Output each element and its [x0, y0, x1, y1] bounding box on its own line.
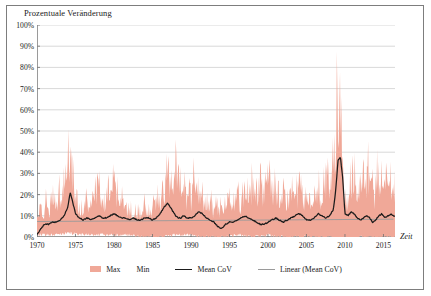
- y-tick-label: 30%: [20, 169, 34, 178]
- chart-svg: [37, 25, 395, 237]
- x-tick-label: 2000: [260, 241, 275, 250]
- x-tick-label: 2010: [337, 241, 352, 250]
- legend-label-linear: Linear (Mean CoV): [280, 265, 342, 274]
- x-tick-label: 1995: [222, 241, 237, 250]
- x-tick-label: 1980: [106, 241, 121, 250]
- y-tick-label: 80%: [20, 63, 34, 72]
- y-tick-label: 40%: [20, 148, 34, 157]
- plot-canvas: [37, 25, 395, 237]
- x-tick-label: 1970: [29, 241, 44, 250]
- line-swatch-icon: [175, 269, 192, 270]
- legend-item-linear-trend: Linear (Mean CoV): [258, 265, 342, 274]
- legend-label-mean-cov: Mean CoV: [197, 265, 231, 274]
- legend-item-mean-cov: Mean CoV: [175, 265, 231, 274]
- y-tick-label: 60%: [20, 105, 34, 114]
- max-min-band: [37, 51, 395, 237]
- y-tick-label: 70%: [20, 84, 34, 93]
- x-tick-label: 1990: [183, 241, 198, 250]
- x-tick-label: 1985: [145, 241, 160, 250]
- y-axis-label: Prozentuale Veränderung: [24, 8, 112, 18]
- x-tick-label: 2005: [299, 241, 314, 250]
- legend-label-max: Max: [106, 265, 120, 274]
- legend-item-max-min: Max Min: [90, 265, 149, 274]
- y-tick-label: 50%: [20, 127, 34, 136]
- chart-legend: Max Min Mean CoV Linear (Mean CoV): [37, 261, 395, 277]
- y-tick-label: 90%: [20, 42, 34, 51]
- y-tick-label: 20%: [20, 190, 34, 199]
- area-swatch-icon: [90, 266, 101, 272]
- y-tick-label: 10%: [20, 211, 34, 220]
- thin-line-swatch-icon: [258, 269, 275, 270]
- x-tick-label: 1975: [68, 241, 83, 250]
- plot-area: 0%10%20%30%40%50%60%70%80%90%100% 197019…: [37, 25, 395, 237]
- y-tick-label: 100%: [16, 21, 34, 30]
- x-tick-label: 2015: [376, 241, 391, 250]
- x-axis-label: Zeit: [400, 232, 412, 241]
- legend-label-min: Min: [136, 265, 149, 274]
- chart-figure: Prozentuale Veränderung 0%10%20%30%40%50…: [0, 0, 431, 296]
